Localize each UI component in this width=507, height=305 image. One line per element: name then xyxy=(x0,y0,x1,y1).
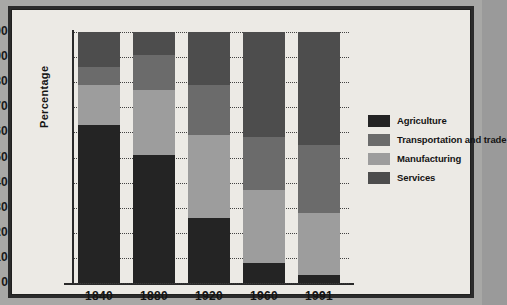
y-axis-tick-label: 0 xyxy=(0,275,8,289)
y-axis-tick-label: 90 xyxy=(0,49,8,63)
legend-item-label: Manufacturing xyxy=(397,153,461,164)
legend-item[interactable]: Transportation and trade xyxy=(368,133,480,146)
y-axis-tick-label: 50 xyxy=(0,150,8,164)
legend-swatch xyxy=(368,153,390,165)
y-axis-tick-label: 70 xyxy=(0,99,8,113)
bar-segment[interactable] xyxy=(133,155,175,283)
legend-swatch xyxy=(368,134,390,146)
stacked-bar[interactable] xyxy=(188,32,230,283)
bar-segment[interactable] xyxy=(298,213,340,276)
x-axis-tick-label: 1920 xyxy=(188,289,230,303)
legend: AgricultureTransportation and tradeManuf… xyxy=(368,114,480,190)
bar-segment[interactable] xyxy=(298,275,340,283)
bar-segment[interactable] xyxy=(188,85,230,135)
bar-segment[interactable] xyxy=(188,32,230,85)
y-axis-tick-label: 20 xyxy=(0,225,8,239)
y-axis-tick-label: 100 xyxy=(0,24,8,38)
legend-item[interactable]: Services xyxy=(368,171,480,184)
y-axis-tick-label: 60 xyxy=(0,124,8,138)
bar-segment[interactable] xyxy=(78,125,120,283)
x-axis-tick-label: 1991 xyxy=(298,289,340,303)
y-axis-tick-label: 10 xyxy=(0,250,8,264)
bar-segment[interactable] xyxy=(298,32,340,145)
y-axis-tick-label: 30 xyxy=(0,200,8,214)
bar-segment[interactable] xyxy=(78,85,120,125)
stacked-bar[interactable] xyxy=(133,32,175,283)
bar-segment[interactable] xyxy=(78,67,120,85)
legend-swatch xyxy=(368,115,390,127)
legend-item-label: Agriculture xyxy=(397,115,447,126)
x-axis-tick-label: 1960 xyxy=(243,289,285,303)
bar-segment[interactable] xyxy=(298,145,340,213)
bar-segment[interactable] xyxy=(188,218,230,283)
bar-segment[interactable] xyxy=(188,135,230,218)
bar-segment[interactable] xyxy=(243,32,285,137)
stacked-bar[interactable] xyxy=(243,32,285,283)
legend-item-label: Transportation and trade xyxy=(397,134,507,145)
plot-area: 1009080706050403020100 18401880192019601… xyxy=(74,32,349,283)
legend-swatch xyxy=(368,172,390,184)
bar-segment[interactable] xyxy=(133,55,175,90)
legend-item[interactable]: Manufacturing xyxy=(368,152,480,165)
y-axis-tick-label: 80 xyxy=(0,74,8,88)
bar-segment[interactable] xyxy=(243,263,285,283)
bar-segment[interactable] xyxy=(133,32,175,55)
bar-segment[interactable] xyxy=(243,137,285,190)
chart-panel: Percentage 1009080706050403020100 184018… xyxy=(11,9,471,295)
x-axis-tick-label: 1880 xyxy=(133,289,175,303)
bar-segment[interactable] xyxy=(243,190,285,263)
stacked-bar[interactable] xyxy=(78,32,120,283)
legend-item[interactable]: Agriculture xyxy=(368,114,480,127)
x-axis-tick-label: 1840 xyxy=(78,289,120,303)
stacked-bar[interactable] xyxy=(298,32,340,283)
y-axis-tick-label: 40 xyxy=(0,175,8,189)
bar-segment[interactable] xyxy=(78,32,120,67)
y-axis-title: Percentage xyxy=(38,66,50,128)
bar-segment[interactable] xyxy=(133,90,175,155)
legend-item-label: Services xyxy=(397,172,435,183)
gridline xyxy=(74,283,349,284)
